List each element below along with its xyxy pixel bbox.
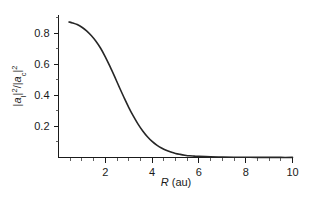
x-axis-title: R (au) <box>161 176 192 188</box>
chart-figure: 246810 0.20.40.60.8 R (au) |aI|2/|ac|2 <box>0 0 313 200</box>
x-tick-label: 2 <box>102 166 108 178</box>
x-tick-label: 6 <box>196 166 202 178</box>
y-tick-label: 0.8 <box>34 27 49 39</box>
x-tick-label: 8 <box>243 166 249 178</box>
x-tick-label: 10 <box>286 166 298 178</box>
line-chart: 246810 0.20.40.60.8 R (au) |aI|2/|ac|2 <box>0 0 313 200</box>
y-tick-label: 0.4 <box>34 89 49 101</box>
y-tick-label: 0.6 <box>34 58 49 70</box>
x-tick-label: 4 <box>149 166 155 178</box>
y-tick-label: 0.2 <box>34 120 49 132</box>
